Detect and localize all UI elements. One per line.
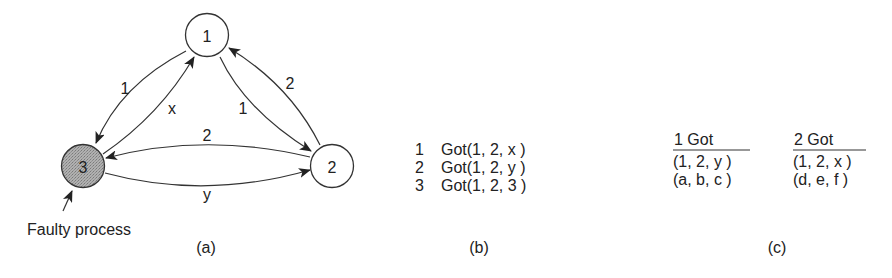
edge-label-2-to-3: 2: [203, 127, 212, 144]
edge-2-to-1: 2: [229, 48, 320, 145]
edge-label-3-to-2: y: [203, 186, 211, 203]
row-process-number: 1: [415, 141, 424, 158]
edge-3-to-2: y: [105, 170, 310, 203]
process-node-2: 2: [311, 145, 354, 188]
figure-canvas: 1 x 1 2 2: [0, 0, 892, 278]
edge-label-1-to-2: 1: [239, 100, 248, 117]
row-got-text: Got(1, 2, y ): [441, 159, 525, 176]
panel-b: 1 Got(1, 2, x ) 2 Got(1, 2, y ) 3 Got(1,…: [415, 141, 526, 256]
column-process-1: 1 Got (1, 2, y ) (a, b, c ): [673, 131, 750, 188]
process-node-3-faulty: 3: [62, 145, 105, 188]
column-cell: (1, 2, x ): [793, 153, 852, 170]
node-label-1: 1: [203, 28, 212, 45]
edge-1-to-3: 1: [96, 51, 186, 143]
caption-c: (c): [768, 239, 787, 256]
column-header: 1 Got: [674, 131, 714, 148]
node-label-3: 3: [79, 159, 88, 176]
edge-label-3-to-1: x: [168, 100, 176, 117]
edge-2-to-3: 2: [106, 127, 310, 159]
column-cell: (d, e, f ): [793, 171, 848, 188]
row-process-number: 3: [415, 177, 424, 194]
edge-label-2-to-1: 2: [286, 75, 295, 92]
edge-1-to-2: 1: [220, 57, 311, 151]
vector-row-1: 1 Got(1, 2, x ): [415, 141, 525, 158]
vector-row-2: 2 Got(1, 2, y ): [415, 159, 525, 176]
edge-3-to-1: x: [103, 57, 194, 154]
panel-c: 1 Got (1, 2, y ) (a, b, c ) 2 Got (1, 2,…: [673, 131, 866, 256]
annotation-arrow-icon: [63, 191, 72, 211]
row-got-text: Got(1, 2, x ): [441, 141, 525, 158]
byzantine-agreement-figure: 1 x 1 2 2: [0, 0, 892, 278]
panel-a: 1 x 1 2 2: [27, 14, 354, 256]
column-header: 2 Got: [794, 131, 834, 148]
row-got-text: Got(1, 2, 3 ): [441, 177, 526, 194]
node-label-2: 2: [328, 159, 337, 176]
column-cell: (1, 2, y ): [673, 153, 732, 170]
row-process-number: 2: [415, 159, 424, 176]
caption-b: (b): [469, 239, 489, 256]
faulty-process-annotation: Faulty process: [27, 191, 131, 238]
process-node-1: 1: [186, 14, 229, 57]
caption-a: (a): [196, 239, 216, 256]
faulty-process-label: Faulty process: [27, 221, 131, 238]
edge-label-1-to-3: 1: [121, 80, 130, 97]
vector-row-3: 3 Got(1, 2, 3 ): [415, 177, 526, 194]
column-process-2: 2 Got (1, 2, x ) (d, e, f ): [793, 131, 866, 188]
column-cell: (a, b, c ): [673, 171, 732, 188]
